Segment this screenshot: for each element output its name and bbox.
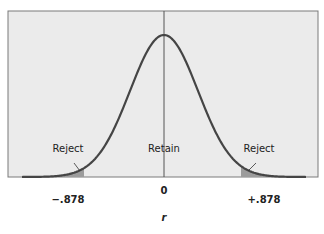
reject-right-label: Reject	[243, 143, 274, 154]
reject-left-label: Reject	[52, 143, 83, 154]
retain-label: Retain	[148, 143, 180, 154]
tick-zero: 0	[161, 185, 168, 196]
tick-pos-critical: +.878	[247, 194, 280, 205]
tick-neg-critical: −.878	[51, 194, 84, 205]
x-axis-title: r	[162, 212, 167, 223]
